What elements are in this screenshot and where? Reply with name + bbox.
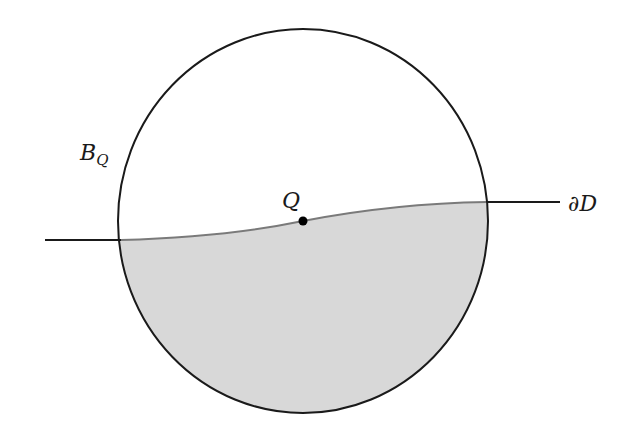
point-q-dot (299, 217, 308, 226)
ball-label: BQ (79, 140, 108, 169)
point-q-label: Q (282, 188, 300, 213)
shaded-region-domain (45, 202, 560, 433)
boundary-label: ∂D (568, 191, 597, 216)
ball-label-main: B (79, 140, 96, 165)
diagram-canvas: BQ Q ∂D (0, 0, 634, 433)
ball-label-subscript: Q (96, 151, 108, 169)
